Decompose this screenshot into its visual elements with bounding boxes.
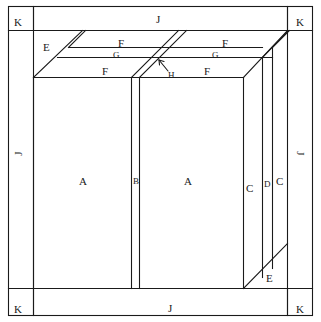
label-e-top-left: E (43, 42, 50, 53)
label-j-bottom: J (168, 303, 172, 314)
label-k-bottom-left: K (14, 304, 22, 315)
label-k-top-left: K (14, 17, 22, 28)
label-c-outer: C (276, 176, 283, 187)
deck-diagonal-left-upper (69, 31, 86, 48)
deck-diagonal-left-outer (34, 31, 83, 78)
label-j-right: J (295, 151, 306, 155)
label-a-left-panel: A (79, 176, 87, 187)
label-a-right-panel: A (184, 176, 192, 187)
label-c-inner: C (246, 183, 253, 194)
label-d-slot: D (264, 180, 271, 189)
label-j-left: J (13, 151, 24, 155)
label-e-bottom-right: E (266, 273, 273, 284)
technical-diagram: K J K E F G F F G F H J A B A C D C J E … (0, 0, 321, 322)
h-leader-arrow (156, 58, 172, 74)
label-g-right: G (212, 51, 219, 60)
label-b-divider: B (133, 177, 139, 186)
label-f-top-left: F (118, 38, 124, 49)
label-g-left: G (113, 51, 120, 60)
label-k-top-right: K (296, 17, 304, 28)
label-k-bottom-right: K (296, 304, 304, 315)
label-f-top-right: F (222, 38, 228, 49)
label-f-mid-right: F (204, 66, 210, 77)
label-j-top: J (156, 14, 160, 25)
label-f-mid-left: F (102, 66, 108, 77)
